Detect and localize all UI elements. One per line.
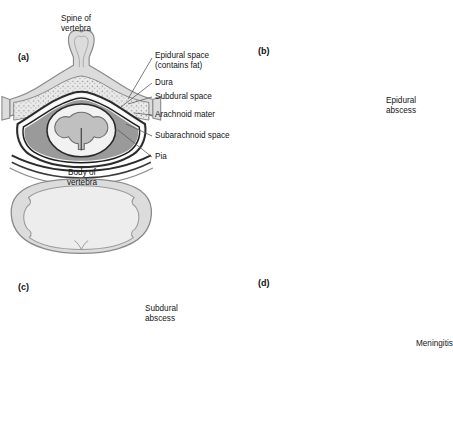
panel-letter-d: (d) xyxy=(258,278,270,288)
label-meningitis: Meningitis xyxy=(416,339,453,349)
label-subdural-space: Subdural space xyxy=(155,92,212,102)
label-epidural-abscess: Epidural abscess xyxy=(386,96,416,117)
panel-letter-b: (b) xyxy=(258,46,270,56)
panel-letter-a: (a) xyxy=(18,52,29,62)
label-arachnoid-mater: Arachnoid mater xyxy=(155,110,215,120)
label-dura: Dura xyxy=(155,78,173,88)
label-subdural-abscess: Subdural abscess xyxy=(145,304,178,325)
label-pia: Pia xyxy=(155,152,167,162)
label-spine-of-vertebra: Spine of vertebra xyxy=(61,14,91,35)
label-body-of-vertebra: Body of vertebra xyxy=(37,168,127,189)
label-epidural-space: Epidural space (contains fat) xyxy=(155,51,209,72)
label-subarachnoid-space: Subarachnoid space xyxy=(155,131,230,141)
panel-letter-c: (c) xyxy=(18,282,29,292)
